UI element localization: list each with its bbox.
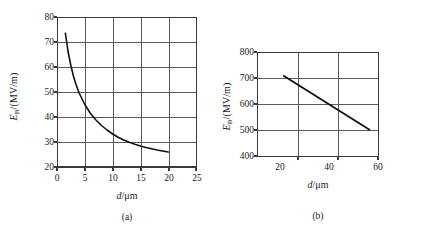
chart-panel-b: EB/(MV/m) 800 700 600 500 400 20 40 60: [213, 0, 426, 235]
data-curve-a: [65, 33, 168, 152]
panel-caption-b: (b): [268, 211, 368, 221]
y-tick-a-20: 20: [36, 163, 54, 173]
x-axis-title-a-unit: /μm: [122, 190, 138, 201]
y-tick-a-70: 70: [36, 38, 54, 48]
plot-area-b: [257, 52, 379, 157]
y-tick-marks-b: [254, 52, 258, 156]
y-tick-b-600: 600: [230, 100, 254, 110]
plot-svg-a: [57, 17, 197, 168]
x-tick-a-10: 10: [103, 174, 123, 184]
y-tick-b-800: 800: [230, 48, 254, 58]
grid-lines-b: [257, 52, 379, 156]
figure-pair: EB/(MV/m) 80 70 60 50 40 30 20 0 5 10 15…: [0, 0, 426, 235]
x-tick-a-0: 0: [47, 174, 67, 184]
x-axis-title-a: d/μm: [77, 190, 177, 201]
x-tick-a-20: 20: [159, 174, 179, 184]
x-tick-b-60: 60: [367, 163, 389, 173]
y-tick-a-30: 30: [36, 138, 54, 148]
x-axis-title-b: d/μm: [268, 179, 368, 190]
y-tick-a-50: 50: [36, 88, 54, 98]
x-axis-title-b-unit: /μm: [313, 179, 329, 190]
y-tick-marks-a: [54, 17, 58, 167]
panel-caption-a: (a): [77, 212, 177, 222]
data-curve-b: [283, 75, 370, 130]
y-axis-title-a-unit: /(MV/m): [8, 73, 19, 110]
plot-svg-b: [257, 52, 379, 157]
y-tick-b-500: 500: [230, 126, 254, 136]
y-tick-a-60: 60: [36, 63, 54, 73]
x-tick-b-20: 20: [269, 163, 291, 173]
y-axis-title-b-subscript: B: [226, 119, 234, 124]
y-tick-b-400: 400: [230, 152, 254, 162]
y-axis-title-a-subscript: B: [13, 109, 21, 114]
y-axis-title-a: EB/(MV/m): [8, 59, 21, 135]
y-tick-a-40: 40: [36, 113, 54, 123]
y-axis-title-a-var: E: [8, 114, 19, 120]
x-tick-a-25: 25: [187, 174, 207, 184]
y-tick-a-80: 80: [36, 13, 54, 23]
y-tick-b-700: 700: [230, 74, 254, 84]
chart-panel-a: EB/(MV/m) 80 70 60 50 40 30 20 0 5 10 15…: [0, 0, 213, 235]
x-tick-a-5: 5: [75, 174, 95, 184]
x-tick-a-15: 15: [131, 174, 151, 184]
x-tick-b-40: 40: [318, 163, 340, 173]
plot-area-a: [57, 17, 197, 168]
